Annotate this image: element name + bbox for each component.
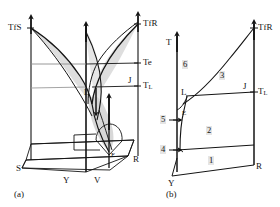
tick-label-4: 4 [160, 145, 166, 154]
label-y-panel-b: Y [168, 179, 175, 188]
label-tl-panel-a-sub: L [149, 83, 153, 90]
label-y-panel-a: Y [63, 176, 70, 185]
solidus-edge-left [22, 160, 26, 168]
label-tl-panel-a: TL [143, 81, 152, 91]
region-label-3: 3 [219, 71, 225, 80]
eutectic-plane-left [31, 142, 86, 144]
label-r-panel-b: R [256, 162, 262, 171]
label-j-panel-a: J [128, 76, 132, 85]
label-l-panel-a: L [84, 88, 90, 97]
isotherm-tl-left [31, 87, 86, 88]
label-tfr-panel-b: TfR [258, 23, 273, 32]
phase-diagram-figure [0, 0, 280, 207]
region-label-2: 2 [206, 126, 212, 135]
panel-b-group [169, 22, 258, 176]
liquidus-curve-left-lower [31, 28, 92, 116]
label-j-panel-b: J [243, 82, 247, 91]
caption-panel-a: (a) [14, 190, 24, 199]
label-v: V [94, 176, 101, 185]
panel-b-base-line [172, 165, 254, 176]
label-r-panel-a: R [133, 155, 139, 164]
label-e-panel-a: E [111, 152, 115, 159]
panel-b-line-level-4 [177, 145, 254, 150]
subsolidus-box-top [74, 134, 96, 135]
label-tl-panel-b-sub: L [264, 89, 268, 96]
label-tfs: TfS [8, 23, 22, 32]
label-s: S [16, 164, 21, 173]
label-t-axis-panel-b: T [166, 38, 172, 47]
label-e-panel-b: E [182, 110, 186, 117]
label-tl-panel-b: TL [258, 87, 267, 97]
label-te: Te [143, 58, 152, 67]
region-label-1: 1 [208, 156, 214, 165]
panel-a-group [22, 14, 141, 172]
tick-label-5: 5 [160, 115, 166, 124]
region-label-6: 6 [182, 60, 188, 69]
caption-panel-b: (b) [166, 190, 177, 199]
label-l-panel-b: L [181, 88, 187, 97]
label-tfr-panel-a: TfR [143, 19, 158, 28]
